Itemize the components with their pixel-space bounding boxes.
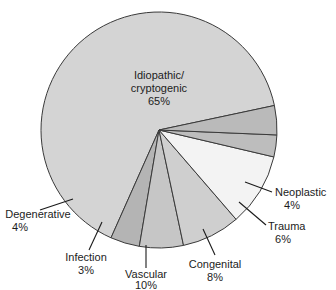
pie-slices [41,12,277,248]
label-infection-value: 3% [78,264,94,276]
label-infection-name: Infection [65,251,107,263]
pie-chart-canvas: Idiopathic/ cryptogenic 65% Neoplastic 4… [0,0,336,290]
label-degenerative-name: Degenerative [5,208,70,220]
label-congenital-value: 8% [207,271,223,283]
label-trauma-name: Trauma [268,220,306,232]
label-vascular-value: 10% [135,279,157,290]
label-trauma-value: 6% [275,233,291,245]
label-congenital-name: Congenital [189,258,242,270]
label-neoplastic-value: 4% [284,199,300,211]
label-idiopathic-value: 65% [148,95,170,107]
label-degenerative-value: 4% [12,221,28,233]
label-idiopathic-line2: cryptogenic [131,82,188,94]
pie-chart-figure: Idiopathic/ cryptogenic 65% Neoplastic 4… [0,0,336,290]
label-idiopathic-line1: Idiopathic/ [134,69,185,81]
label-neoplastic-name: Neoplastic [275,186,327,198]
